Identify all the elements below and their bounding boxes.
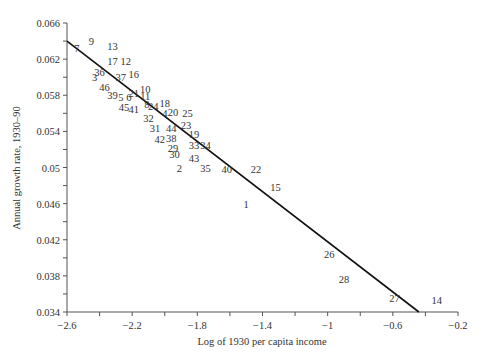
x-axis-ticks: −2.6−2.2−1.8−1.4−1−0.6−0.2: [57, 312, 467, 331]
x-tick-label: −2.6: [57, 320, 76, 331]
scatter-chart: −2.6−2.2−1.8−1.4−1−0.6−0.2 0.0340.0380.0…: [0, 0, 481, 359]
x-tick-label: −0.6: [383, 320, 402, 331]
data-point-label: 43: [189, 153, 200, 164]
data-point-label: 35: [200, 163, 211, 174]
x-tick-label: −1.4: [253, 320, 273, 331]
data-point-label: 38: [166, 133, 177, 144]
data-point-label: 46: [99, 82, 110, 93]
data-point-label: 34: [200, 140, 211, 151]
y-tick-label: 0.05: [42, 163, 60, 174]
y-tick-label: 0.066: [36, 18, 60, 29]
x-tick-label: −1: [322, 320, 333, 331]
x-tick-label: −1.8: [188, 320, 207, 331]
data-point-label: 16: [129, 69, 140, 80]
data-point-label: 22: [251, 164, 262, 175]
y-tick-label: 0.038: [36, 271, 60, 282]
x-tick-label: −2.2: [123, 320, 142, 331]
data-point-labels: 1234567891011121314151617181920212223242…: [74, 36, 443, 306]
y-tick-label: 0.042: [36, 235, 60, 246]
data-point-label: 13: [107, 41, 118, 52]
data-point-label: 44: [166, 123, 177, 134]
data-point-label: 41: [129, 104, 140, 115]
data-point-label: 25: [182, 108, 193, 119]
x-tick-label: −0.2: [448, 320, 467, 331]
data-point-label: 42: [155, 134, 166, 145]
y-axis-title: Annual growth rate, 1930–90: [11, 106, 22, 230]
data-point-label: 17: [107, 56, 118, 67]
data-point-label: 2: [177, 163, 182, 174]
data-point-label: 26: [324, 249, 335, 260]
y-tick-label: 0.046: [36, 199, 60, 210]
data-point-label: 27: [389, 293, 400, 304]
data-point-label: 28: [339, 274, 350, 285]
data-point-label: 32: [143, 113, 154, 124]
data-point-label: 1: [244, 199, 249, 210]
data-point-label: 21: [129, 88, 140, 99]
data-point-label: 24: [148, 101, 159, 112]
data-point-label: 12: [120, 56, 131, 67]
y-tick-label: 0.062: [36, 54, 60, 65]
y-tick-label: 0.034: [36, 307, 60, 318]
data-point-label: 9: [89, 36, 94, 47]
data-point-label: 15: [270, 182, 281, 193]
data-point-label: 14: [432, 295, 443, 306]
data-point-label: 45: [119, 102, 130, 113]
data-point-label: 36: [94, 67, 105, 78]
data-point-label: 40: [221, 164, 232, 175]
data-point-label: 20: [168, 107, 179, 118]
data-point-label: 23: [181, 120, 192, 131]
x-axis-title: Log of 1930 per capita income: [197, 336, 327, 347]
y-tick-label: 0.058: [36, 90, 60, 101]
y-tick-label: 0.054: [36, 126, 60, 137]
data-point-label: 30: [169, 149, 180, 160]
data-point-label: 37: [116, 72, 127, 83]
data-point-label: 7: [74, 43, 79, 54]
data-point-label: 31: [150, 123, 161, 134]
data-point-label: 33: [189, 140, 200, 151]
y-axis-ticks: 0.0340.0380.0420.0460.050.0540.0580.0620…: [36, 18, 67, 318]
